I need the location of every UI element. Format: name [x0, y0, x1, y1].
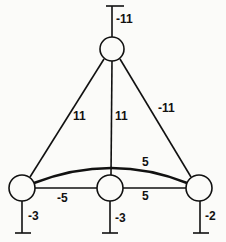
terminal-label-right: -2 — [205, 209, 216, 223]
edge-label-top-right: -11 — [158, 101, 175, 115]
node-top — [100, 37, 124, 61]
terminal-label-left: -3 — [28, 209, 39, 223]
node-left — [9, 175, 35, 201]
edge-label-left-right-arc: 5 — [142, 155, 149, 169]
terminal-left: -3 — [15, 201, 39, 233]
edge-label-top-left: 11 — [73, 109, 86, 123]
terminal-label-middle: -3 — [115, 211, 126, 225]
terminal-top: -11 — [106, 6, 133, 37]
terminal-label-top: -11 — [116, 12, 133, 26]
terminal-right: -2 — [193, 201, 216, 233]
edge-top-middle — [111, 61, 112, 175]
terminal-middle: -3 — [102, 201, 126, 233]
edge-label-left-middle: -5 — [57, 191, 68, 205]
node-middle — [97, 175, 123, 201]
node-right — [186, 175, 212, 201]
edge-top-right — [120, 59, 191, 177]
edge-label-top-middle: 11 — [115, 109, 128, 123]
graph-diagram: -11 11 11 -11 5 -5 5 -3 -3 -2 — [0, 0, 226, 242]
edge-top-left — [30, 59, 104, 177]
edge-label-middle-right: 5 — [142, 189, 149, 203]
